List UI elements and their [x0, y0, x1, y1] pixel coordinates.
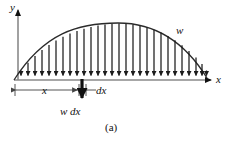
distributed-load-figure: y x w x dx w dx (a): [0, 0, 229, 141]
dimension-dx: [86, 84, 96, 96]
element-force-label: w dx: [60, 106, 80, 117]
figure-drawing: [0, 0, 229, 141]
dimension-x: [15, 84, 79, 96]
figure-caption: (a): [105, 122, 117, 133]
x-axis-label: x: [216, 74, 221, 85]
load-intensity-label: w: [176, 25, 183, 36]
y-axis-label: y: [10, 2, 15, 13]
element-width-label: dx: [96, 85, 106, 96]
distance-x-label: x: [42, 85, 47, 96]
